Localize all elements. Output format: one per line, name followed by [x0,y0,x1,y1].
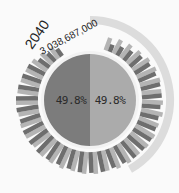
radial-bar [18,87,39,90]
radial-bar [110,45,113,52]
right-percentage: 49.8% [95,94,126,107]
radial-bar [90,152,91,173]
radial-bar [142,106,161,107]
radial-bar [95,152,96,174]
radial-bar [80,151,82,172]
radial-bar-chart: 49.8% 49.8% 2040 3,038,687,000 [0,0,179,193]
left-percentage: 49.8% [56,94,87,107]
center-circle: 49.8% 49.8% [44,54,136,146]
radial-bar [142,101,163,102]
radial-bar [142,96,162,98]
radial-bar [142,91,162,93]
radial-bar [84,152,86,174]
